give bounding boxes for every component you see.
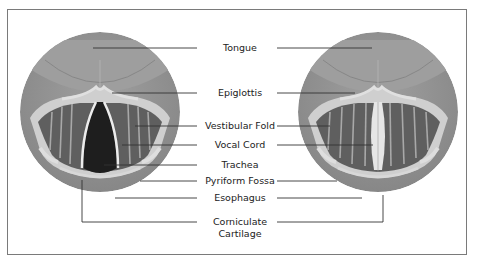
label-corniculate-cartilage-line2: Cartilage [175, 228, 305, 240]
label-vestibular-fold: Vestibular Fold [175, 120, 305, 132]
label-epiglottis: Epiglottis [175, 87, 305, 99]
label-trachea: Trachea [175, 159, 305, 171]
label-corniculate-cartilage-line1: Corniculate [175, 216, 305, 228]
label-tongue: Tongue [175, 42, 305, 54]
larynx-closed [298, 32, 458, 192]
larynx-open [20, 32, 180, 192]
label-vocal-cord: Vocal Cord [175, 139, 305, 151]
label-pyriform-fossa: Pyriform Fossa [175, 175, 305, 187]
label-esophagus: Esophagus [175, 192, 305, 204]
